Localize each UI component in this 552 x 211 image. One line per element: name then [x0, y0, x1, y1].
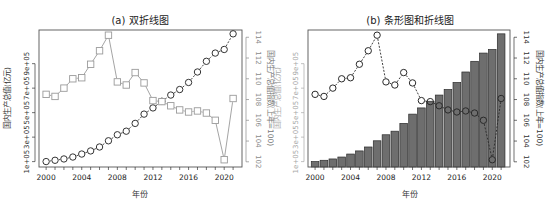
circle-marker	[132, 120, 138, 126]
circle-marker	[347, 75, 353, 81]
circle-marker	[141, 111, 147, 117]
circle-marker	[221, 46, 227, 52]
bar	[462, 72, 470, 167]
circle-marker	[114, 132, 120, 138]
x-tick-label: 2000	[306, 173, 325, 182]
circle-marker	[87, 148, 93, 154]
square-marker	[132, 69, 138, 75]
series-segment	[225, 102, 233, 156]
series-segment	[327, 91, 330, 94]
circle-marker	[185, 79, 191, 85]
square-marker	[168, 103, 174, 109]
y-tick-label: 112	[522, 51, 530, 64]
y-tick-label: 1e+05	[292, 150, 300, 174]
series-segment	[361, 54, 366, 61]
x-tick-label: 2008	[108, 173, 127, 182]
square-marker	[123, 82, 129, 88]
x-tick-label: 2016	[447, 173, 466, 182]
bar	[400, 123, 408, 167]
series-segment	[216, 124, 223, 156]
y-tick-label: 114	[522, 31, 530, 45]
figure-canvas: (a) 双折线图 年份 国内生产总值(亿元) 国内生产总值指数(上年=100) …	[0, 0, 552, 211]
circle-marker	[418, 97, 424, 103]
series-segment	[226, 37, 231, 46]
panel-b-xlabel: 年份	[402, 189, 418, 199]
circle-marker	[321, 93, 327, 99]
circle-marker	[52, 157, 58, 163]
x-tick-label: 2008	[376, 173, 395, 182]
y-tick-label: 104	[522, 134, 530, 148]
y-tick-label: 106	[254, 114, 262, 128]
y-tick-label: 5e+05	[292, 101, 300, 125]
x-tick-label: 2004	[341, 173, 360, 182]
series-segment	[200, 64, 204, 69]
square-marker	[221, 157, 227, 163]
bar	[347, 154, 355, 167]
y-tick-label: 3e+05	[23, 125, 31, 149]
bar	[453, 82, 461, 167]
series-segment	[94, 149, 96, 150]
circle-marker	[61, 156, 67, 162]
figure: (a) 双折线图 年份 国内生产总值(亿元) 国内生产总值指数(上年=100) …	[0, 0, 552, 211]
y-tick-label: 104	[254, 134, 262, 148]
square-marker	[96, 48, 102, 54]
series-segment	[109, 39, 116, 78]
series-segment	[103, 143, 106, 145]
series-segment	[390, 83, 392, 84]
circle-marker	[338, 76, 344, 82]
bar	[373, 141, 381, 167]
circle-marker	[312, 91, 318, 97]
bar	[426, 101, 434, 167]
circle-marker	[150, 105, 156, 111]
bar	[356, 151, 364, 167]
square-marker	[52, 93, 58, 99]
panel-b-title: (b) 条形图和折线图	[366, 14, 453, 26]
y-axis-right: 102104106108110112114	[514, 31, 530, 169]
series-segment	[406, 75, 410, 80]
circle-marker	[365, 48, 371, 54]
series-segment	[191, 75, 195, 80]
circle-marker	[168, 92, 174, 98]
series-segment	[378, 39, 385, 78]
square-marker	[150, 97, 156, 103]
panel-b-ylabel-left: 国内生产总值(亿元)	[272, 67, 282, 129]
circle-marker	[374, 32, 380, 38]
y-tick-label: 9e+05	[23, 52, 31, 76]
square-marker	[70, 76, 76, 82]
panel-a-plot-area: 2000200420082012201620201e+053e+055e+057…	[23, 30, 262, 182]
series-segment	[121, 133, 123, 134]
series-segment	[112, 137, 115, 139]
y-tick-label: 7e+05	[292, 76, 300, 100]
y-tick-label: 3e+05	[292, 125, 300, 149]
panel-a-xlabel: 年份	[132, 189, 148, 199]
bar	[418, 108, 426, 167]
bar	[338, 157, 346, 167]
square-marker	[87, 61, 93, 67]
bar-series	[311, 34, 505, 167]
y-tick-label: 102	[522, 155, 530, 168]
square-marker	[212, 117, 218, 123]
y-tick-label: 108	[522, 93, 530, 106]
panel-a-title: (a) 双折线图	[111, 14, 168, 26]
series-segment	[174, 107, 176, 108]
square-marker	[230, 95, 236, 101]
x-axis: 200020042008201220162020	[37, 167, 234, 182]
y-tick-label: 102	[254, 155, 262, 168]
x-tick-label: 2020	[483, 173, 502, 182]
circle-marker	[96, 144, 102, 150]
series-segment	[335, 82, 339, 86]
x-tick-label: 2012	[143, 173, 162, 182]
square-marker	[105, 32, 111, 38]
series-segment	[397, 76, 401, 82]
y-tick-label: 9e+05	[292, 52, 300, 76]
y-tick-label: 110	[522, 72, 530, 85]
y-tick-label: 112	[254, 51, 262, 64]
circle-marker	[409, 80, 415, 86]
x-tick-label: 2016	[179, 173, 198, 182]
series-segment	[353, 67, 358, 74]
bar	[391, 131, 399, 167]
y-tick-label: 110	[254, 72, 262, 85]
square-marker	[114, 79, 120, 85]
series-segment	[209, 56, 212, 59]
panel-b-plot-area: 2000200420082012201620201e+053e+055e+057…	[292, 30, 530, 182]
